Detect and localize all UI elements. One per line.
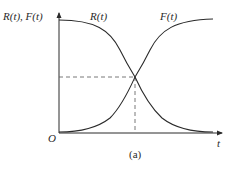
reliability-diagram: R(t), F(t) R(t) F(t) O t (a) bbox=[0, 0, 235, 174]
r-curve-label: R(t) bbox=[89, 10, 107, 23]
f-curve-label: F(t) bbox=[159, 10, 177, 23]
x-axis-label: t bbox=[217, 137, 221, 149]
figure-caption: (a) bbox=[129, 148, 142, 161]
origin-label: O bbox=[48, 132, 56, 144]
y-axis-label: R(t), F(t) bbox=[2, 10, 43, 23]
f-curve bbox=[59, 19, 213, 132]
